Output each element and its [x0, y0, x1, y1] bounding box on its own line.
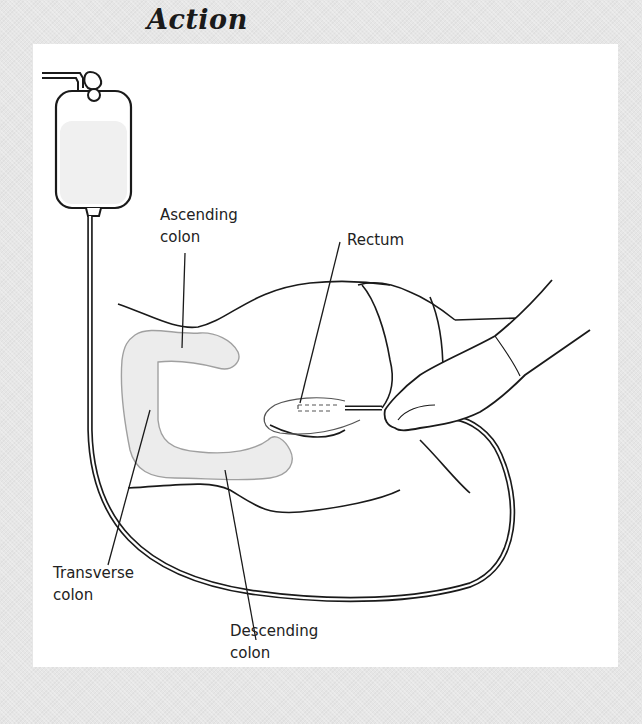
colon — [121, 330, 292, 479]
gloved-hand-icon — [385, 280, 590, 430]
hanger-icon — [42, 72, 101, 90]
label-rectum: Rectum — [347, 229, 404, 251]
label-ascending-colon: Ascending colon — [160, 204, 238, 248]
label-descending-colon: Descending colon — [230, 620, 318, 664]
enema-illustration — [0, 0, 642, 724]
label-transverse-colon: Transverse colon — [53, 562, 134, 606]
enema-bag-icon — [56, 89, 131, 216]
